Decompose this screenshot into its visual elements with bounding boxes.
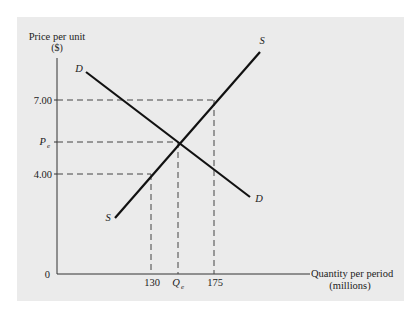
demand-label-top: D <box>74 63 83 74</box>
x-tick-label-qe-sub: e <box>181 283 184 291</box>
demand-label-bottom: D <box>254 193 263 204</box>
y-tick-label-7: 7.00 <box>34 95 52 106</box>
supply-label-top: S <box>259 35 265 46</box>
x-axis-title: Quantity per period <box>311 268 394 279</box>
x-tick-label-175: 175 <box>207 277 223 288</box>
y-tick-label-4: 4.00 <box>34 169 52 180</box>
x-axis-units: (millions) <box>329 280 371 292</box>
origin-label: 0 <box>45 269 50 280</box>
y-axis-title: Price per unit <box>29 31 86 42</box>
supply-curve <box>115 52 260 218</box>
x-tick-label-130: 130 <box>144 277 160 288</box>
y-tick-label-pe-sub: e <box>47 142 50 150</box>
y-tick-label-pe: P <box>39 136 47 147</box>
supply-label-bottom: S <box>105 212 111 223</box>
supply-demand-chart: Price per unit ($) Quantity per period (… <box>0 0 418 313</box>
x-tick-label-qe: Q <box>172 277 180 288</box>
y-axis-units: ($) <box>51 42 63 54</box>
